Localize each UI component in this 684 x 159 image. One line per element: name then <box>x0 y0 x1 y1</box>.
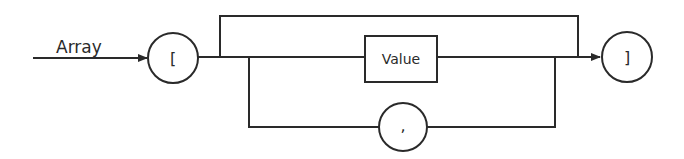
value-node: Value <box>365 36 437 82</box>
loop-track-right <box>427 57 555 127</box>
value-label: Value <box>382 51 420 67</box>
diagram-title: Array <box>56 37 102 57</box>
close-bracket-label: ] <box>624 48 630 67</box>
open-bracket-label: [ <box>170 49 176 68</box>
array-syntax-diagram: Array [ Value , ] <box>0 0 684 159</box>
comma-label: , <box>400 116 405 135</box>
comma-node: , <box>379 103 427 151</box>
open-bracket-node: [ <box>148 33 198 83</box>
close-bracket-node: ] <box>602 32 652 82</box>
loop-track-left <box>249 57 379 127</box>
